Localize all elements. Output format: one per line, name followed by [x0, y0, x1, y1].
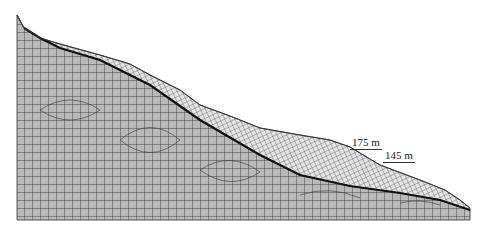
- slope-mesh-figure: [0, 0, 486, 236]
- elevation-label-175m: 175 m: [350, 136, 382, 150]
- elevation-label-145m: 145 m: [383, 149, 415, 163]
